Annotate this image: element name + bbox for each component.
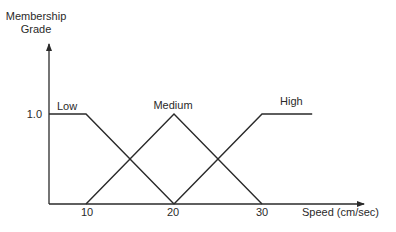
series-label-medium: Medium [153,99,192,111]
series-line-medium [86,114,262,204]
series-label-low: Low [57,100,77,112]
x-tick-label: 20 [167,206,179,218]
series-layer [49,114,312,204]
membership-function-chart: Membership Grade Speed (cm/sec) 1.0 10 2… [0,0,396,232]
y-axis-label-line1: Membership [6,10,67,22]
x-tick-label: 10 [81,206,93,218]
series-line-high [174,114,312,204]
y-tick-label: 1.0 [27,108,42,120]
x-axis-label: Speed (cm/sec) [302,206,379,218]
series-label-high: High [280,95,303,107]
y-axis-label-line2: Grade [21,23,52,35]
x-tick-label: 30 [256,206,268,218]
series-line-low [49,114,174,204]
